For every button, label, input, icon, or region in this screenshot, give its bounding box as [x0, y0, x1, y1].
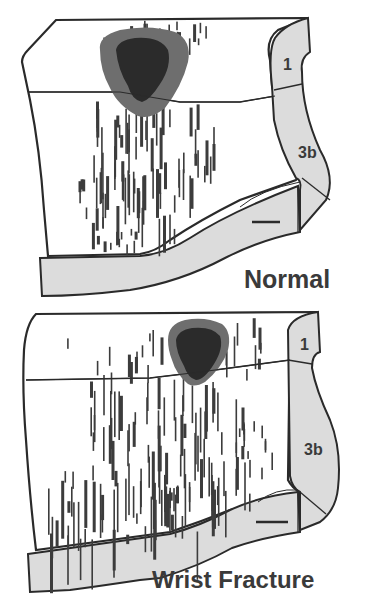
receptive-field-bar [189, 38, 191, 55]
receptive-field-bar [135, 232, 138, 240]
receptive-field-bar [114, 392, 116, 438]
receptive-field-bar [116, 232, 118, 246]
receptive-field-bar [104, 241, 107, 252]
receptive-field-bar [135, 137, 137, 160]
receptive-field-bar [200, 459, 203, 498]
receptive-field-bar [218, 478, 220, 526]
receptive-field-bar [120, 396, 123, 431]
receptive-field-bar [239, 428, 241, 437]
receptive-field-bar [72, 472, 74, 489]
receptive-field-bar [97, 236, 100, 245]
receptive-field-bar [174, 380, 176, 421]
receptive-field-bar [96, 208, 99, 230]
receptive-field-bar [259, 328, 262, 350]
receptive-field-bar [190, 108, 193, 137]
receptive-field-bar [122, 162, 124, 200]
receptive-field-bar [241, 446, 244, 459]
receptive-field-bar [102, 217, 104, 229]
receptive-field-bar [271, 453, 273, 470]
receptive-field-bar [161, 490, 163, 526]
receptive-field-bar [197, 150, 199, 178]
receptive-field-bar [226, 351, 228, 377]
receptive-field-bar [131, 229, 133, 236]
receptive-field-bar [212, 500, 214, 528]
receptive-field-bar [174, 195, 176, 212]
receptive-field-bar [200, 23, 202, 33]
receptive-field-bar [204, 411, 207, 439]
receptive-field-bar [90, 407, 92, 436]
receptive-field-bar [97, 361, 99, 376]
receptive-field-bar [206, 140, 209, 175]
receptive-field-bar [244, 462, 246, 510]
panel-normal: 1 3b Normal [0, 0, 365, 305]
receptive-field-bar [217, 393, 219, 432]
receptive-field-bar [115, 471, 118, 487]
receptive-field-bar [213, 144, 216, 171]
receptive-field-bar [134, 241, 136, 254]
receptive-field-bar [213, 127, 215, 144]
receptive-field-bar [175, 495, 177, 538]
receptive-field-bar [73, 502, 75, 547]
receptive-field-bar [253, 421, 255, 431]
receptive-field-bar [180, 455, 182, 477]
receptive-field-bar [223, 461, 225, 496]
receptive-field-bar [149, 333, 151, 341]
receptive-field-bar [175, 417, 177, 441]
receptive-field-bar [152, 169, 154, 199]
receptive-field-bar [143, 201, 145, 225]
receptive-field-bar [237, 323, 239, 346]
receptive-field-bar [92, 466, 94, 481]
receptive-field-bar [221, 432, 223, 455]
receptive-field-bar [156, 113, 158, 145]
receptive-field-bar [93, 482, 96, 533]
receptive-field-bar [203, 439, 205, 478]
receptive-field-bar [189, 482, 191, 502]
receptive-field-bar [147, 383, 149, 411]
receptive-field-bar [120, 135, 123, 148]
receptive-field-bar [116, 116, 119, 128]
receptive-field-bar [183, 424, 186, 438]
receptive-field-bar [119, 239, 121, 247]
receptive-field-bar [139, 191, 141, 213]
receptive-field-bar [142, 345, 144, 357]
receptive-field-bar [133, 422, 136, 447]
receptive-field-bar [97, 120, 99, 146]
receptive-field-bar [169, 488, 171, 508]
receptive-field-bar [164, 397, 166, 435]
receptive-field-bar [179, 170, 181, 197]
receptive-field-bar [161, 337, 164, 364]
receptive-field-bar [246, 369, 248, 381]
receptive-field-bar [159, 463, 161, 504]
receptive-field-bar [84, 480, 87, 528]
receptive-field-bar [67, 501, 70, 513]
receptive-field-bar [82, 180, 85, 192]
region-label-3b: 3b [304, 441, 323, 458]
receptive-field-bar [194, 154, 197, 166]
receptive-field-bar [247, 451, 249, 459]
receptive-field-bar [80, 539, 82, 580]
receptive-field-bar [105, 194, 107, 218]
receptive-field-bar [136, 513, 138, 523]
receptive-field-bar [140, 481, 142, 514]
receptive-field-bar [249, 494, 251, 512]
receptive-field-bar [135, 412, 137, 424]
receptive-field-bar [184, 449, 186, 488]
receptive-field-bar [169, 110, 171, 128]
receptive-field-bar [194, 433, 196, 481]
receptive-field-bar [133, 172, 135, 213]
receptive-field-bar [164, 162, 167, 189]
receptive-field-bar [148, 457, 150, 488]
receptive-field-bar [261, 468, 263, 480]
receptive-field-bar [158, 378, 161, 409]
receptive-field-bar [174, 229, 176, 244]
receptive-field-bar [236, 457, 239, 490]
receptive-field-bar [147, 365, 149, 383]
receptive-field-bar [84, 529, 86, 547]
receptive-field-bar [126, 244, 128, 255]
receptive-field-bar [249, 460, 251, 478]
receptive-field-bar [129, 174, 131, 215]
receptive-field-bar [114, 146, 116, 190]
receptive-field-bar [261, 426, 263, 439]
receptive-field-bar [138, 212, 140, 233]
receptive-field-bar [205, 26, 207, 38]
